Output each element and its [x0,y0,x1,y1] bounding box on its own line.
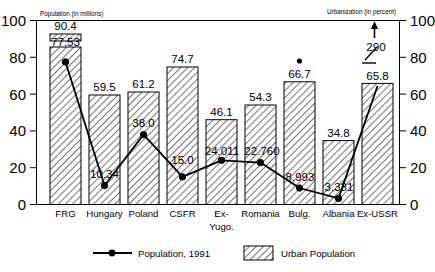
marker-ex-yugo [218,157,224,163]
chart-svg: 100 80 60 40 20 0 100 80 60 40 20 0 Popu… [0,0,435,272]
line-label-poland: 38.0 [132,116,155,129]
line-label-hungary: 10.34 [90,167,120,180]
cat-label-csfr: CSFR [169,208,195,219]
bar-frg [50,47,81,205]
cat-label-frg: FRG [55,208,75,219]
cat-label-romania: Romania [241,208,280,219]
y-tick-100: 100 [1,12,26,29]
line-label-frg: 77.53 [51,35,80,48]
cat-label-poland: Poland [129,208,159,219]
chart-figure: 100 80 60 40 20 0 100 80 60 40 20 0 Popu… [0,0,435,272]
cat-label-ex-yugo-line2: Yugo. [209,221,234,232]
legend-line-marker-icon [109,250,116,257]
legend-label-urban: Urban Population [281,248,355,259]
line-label-ex-yugo: 24.011 [205,144,240,157]
line-label-albania: 3.331 [324,180,353,193]
stray-dot-artifact [297,58,302,63]
right-axis-title: Urbanization (in percent) [327,8,396,16]
bar-label-bulgaria: 66.7 [288,67,311,80]
bar-label-poland: 61.2 [132,77,155,90]
marker-frg [62,59,68,65]
left-axis-title: Population (in millions) [40,10,103,18]
y-tick-60: 60 [9,86,26,103]
marker-albania [335,195,341,201]
bar-label-ex-ussr: 65.8 [366,69,389,82]
bar-ex-ussr [362,83,393,204]
marker-poland [140,131,146,137]
legend-bar-swatch-icon [244,246,273,260]
y-tick-80: 80 [9,49,26,66]
legend-item-bar: Urban Population [244,246,355,260]
marker-csfr [179,174,185,180]
bar-label-csfr: 74.7 [171,52,194,65]
cat-label-hungary: Hungary [86,208,122,219]
marker-hungary [101,182,107,188]
y2-tick-80: 80 [410,49,427,66]
y2-tick-40: 40 [410,122,427,139]
bar-label-hungary: 59.5 [93,80,116,93]
line-label-bulgaria: 8.993 [285,170,314,183]
line-label-csfr: 15.0 [171,153,194,166]
marker-bulgaria [296,185,302,191]
marker-romania [257,159,263,165]
cat-label-ex-ussr: Ex-USSR [357,208,398,219]
bar-label-ex-yugo: 46.1 [210,105,233,118]
y-tick-40: 40 [9,122,26,139]
cat-label-ex-yugo-line1: Ex- [214,208,228,219]
bar-csfr [167,67,198,205]
y-tick-0: 0 [18,196,26,213]
bar-label-frg: 90.4 [54,19,77,32]
y2-tick-20: 20 [410,159,427,176]
y2-tick-100: 100 [410,12,435,29]
y-tick-20: 20 [9,159,26,176]
bar-label-romania: 54.3 [249,90,272,103]
legend-label-population: Population, 1991 [138,248,210,259]
line-label-ex-ussr: 290 [366,40,385,53]
y2-tick-0: 0 [410,196,418,213]
cat-label-bulgaria: Bulg. [289,208,311,219]
y2-tick-60: 60 [410,86,427,103]
bar-label-albania: 34.8 [327,126,350,139]
cat-label-albania: Albania [322,208,355,219]
line-label-romania: 22.760 [244,144,279,157]
